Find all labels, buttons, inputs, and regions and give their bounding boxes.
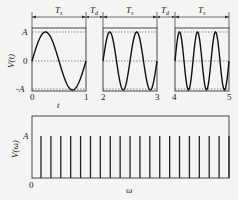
time-domain-plot: Ts Td Ts Td Ts [6, 5, 232, 110]
y-axis-label-bottom: V(ω) [10, 140, 20, 158]
ts-label-3: Ts [198, 5, 206, 16]
y-tick-minus-A: -A [16, 84, 25, 94]
spectrum-spikes [41, 136, 229, 178]
x-tick-3: 3 [155, 92, 160, 102]
ts-label-1: Ts [55, 5, 63, 16]
td-label-1: Td [90, 5, 99, 16]
ts-label-2: Ts [126, 5, 134, 16]
frequency-domain-plot: A V(ω) 0 ω [10, 116, 229, 195]
x-tick-2: 2 [101, 92, 106, 102]
y-tick-0: 0 [23, 56, 28, 66]
x-tick-0: 0 [30, 92, 35, 102]
spectrum-y-tick-A: A [22, 131, 29, 141]
x-axis-label-top: t [57, 100, 60, 110]
diagram: Ts Td Ts Td Ts [0, 0, 238, 200]
y-tick-A: A [21, 27, 28, 37]
spectrum-x-tick-0: 0 [29, 180, 34, 190]
x-tick-4: 4 [172, 92, 177, 102]
td-label-2: Td [161, 5, 170, 16]
x-tick-5: 5 [227, 92, 232, 102]
y-axis-label-top: V(t) [6, 54, 16, 68]
interval-dimensions: Ts Td Ts Td Ts [32, 5, 229, 19]
x-tick-1: 1 [84, 92, 89, 102]
x-axis-label-bottom: ω [126, 185, 132, 195]
